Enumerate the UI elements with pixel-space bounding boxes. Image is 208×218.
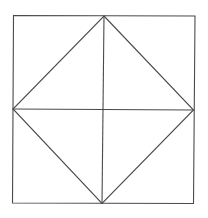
geometry-diagram [0, 0, 208, 218]
horizontal-midline [13, 109, 194, 110]
